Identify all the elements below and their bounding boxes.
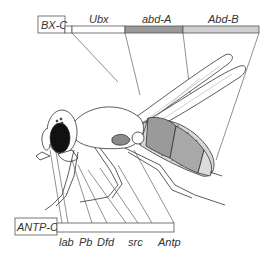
proboscis <box>36 152 50 160</box>
ovipositor <box>210 172 222 176</box>
mapping-line <box>72 33 118 82</box>
leg-hind-tarsus <box>210 200 225 205</box>
fly-illustration <box>36 54 246 210</box>
ocellus <box>60 118 62 120</box>
gene-label-antp: Antp <box>157 236 181 248</box>
bx-c-label: BX-C <box>41 19 67 31</box>
haltere <box>132 132 144 144</box>
haltere-shaded <box>112 134 130 145</box>
gene-label-ubx: Ubx <box>89 13 109 25</box>
gene-label-abd-a: abd-A <box>142 13 171 25</box>
bx-c-connector <box>65 26 72 33</box>
abd-b-segment <box>183 26 259 33</box>
gene-label-abd-b: Abd-B <box>207 13 239 25</box>
ocellus <box>61 122 63 124</box>
compound-eye <box>50 123 70 153</box>
gene-label-lab: lab <box>59 236 74 248</box>
mapping-line <box>216 33 259 160</box>
ubx-segment <box>72 26 125 33</box>
abdomen-mid-shaded <box>170 126 204 173</box>
diagram-canvas: BX-C Ubx abd-A Abd-B <box>0 0 275 261</box>
gene-label-dfd: Dfd <box>97 236 115 248</box>
leg-middle <box>92 148 118 200</box>
abd-a-segment <box>125 26 183 33</box>
antp-c-bar <box>57 223 174 232</box>
mapping-line <box>78 165 107 223</box>
mapping-line <box>56 152 68 223</box>
gene-label-pb: Pb <box>79 236 92 248</box>
leg-front-tarsus <box>45 205 52 210</box>
thorax <box>72 107 144 149</box>
hox-gene-diagram: BX-C Ubx abd-A Abd-B <box>0 0 275 261</box>
leg-middle-tarsus <box>80 200 92 202</box>
ocellus <box>56 120 58 122</box>
gene-label-src: src <box>128 236 143 248</box>
mapping-line <box>50 150 62 223</box>
antp-c-label: ANTP-C <box>16 221 58 233</box>
bx-c-complex: BX-C Ubx abd-A Abd-B <box>38 13 259 33</box>
mapping-line <box>72 160 92 223</box>
mapping-line <box>125 33 140 95</box>
antp-c-complex: ANTP-C lab Pb Dfd src Antp <box>15 218 181 248</box>
